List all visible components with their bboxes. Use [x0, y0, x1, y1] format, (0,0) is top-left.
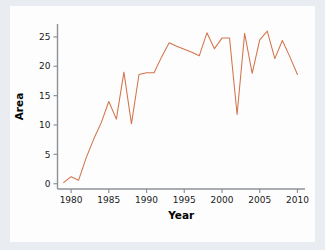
line-chart: 0510152025 1980198519901995200020052010 … [0, 0, 325, 250]
y-tick-label: 25 [39, 32, 50, 42]
x-tick-label: 1985 [97, 195, 120, 205]
y-axis-ticks: 0510152025 [39, 32, 57, 189]
y-axis-title: Area [13, 93, 25, 121]
y-tick-label: 5 [45, 150, 51, 160]
x-axis-ticks: 1980198519901995200020052010 [60, 189, 310, 205]
y-tick-label: 10 [39, 120, 51, 130]
series-area-line [64, 31, 298, 182]
y-tick-label: 20 [39, 61, 51, 71]
x-tick-label: 2010 [286, 195, 309, 205]
x-tick-label: 1980 [60, 195, 83, 205]
x-tick-label: 1995 [173, 195, 196, 205]
x-tick-label: 2000 [211, 195, 234, 205]
y-tick-label: 0 [45, 179, 51, 189]
y-tick-label: 15 [39, 91, 50, 101]
x-tick-label: 2005 [248, 195, 271, 205]
x-axis-title: Year [167, 209, 195, 221]
chart-figure: 0510152025 1980198519901995200020052010 … [0, 0, 325, 250]
x-tick-label: 1990 [135, 195, 158, 205]
